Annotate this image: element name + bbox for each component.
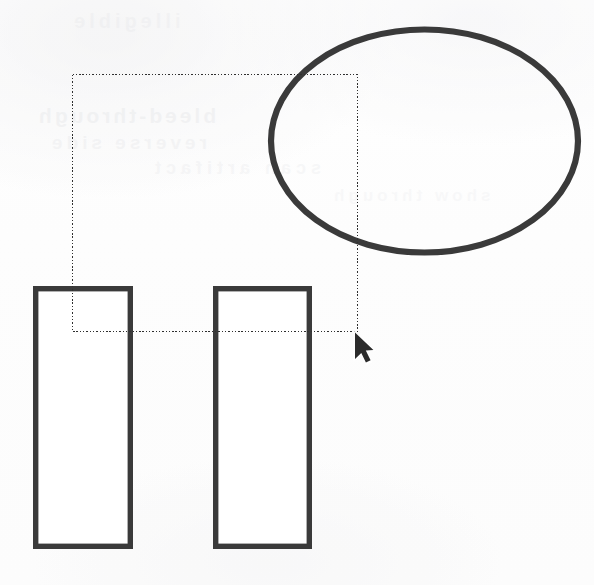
drawing-canvas[interactable]: illegible bleed-through reverse side sca… bbox=[0, 0, 594, 585]
ellipse-shape[interactable] bbox=[271, 30, 578, 253]
mouse-cursor bbox=[353, 330, 376, 365]
rectangle-shape-left[interactable] bbox=[36, 289, 131, 547]
cursor-arrow-icon bbox=[355, 333, 373, 363]
vector-drawing-layer bbox=[0, 0, 594, 585]
rectangle-shape-right[interactable] bbox=[216, 289, 310, 547]
